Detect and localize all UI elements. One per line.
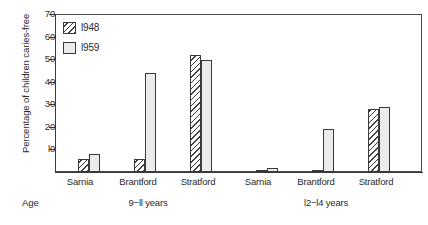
y-tick-label-70: 70 (9, 9, 55, 19)
group-label-12-14: l2−l4 years (266, 197, 386, 208)
y-axis-ticks: 70 60 50 40 30 20 l0 (0, 0, 55, 225)
bar-1948-brantford-12-14 (312, 170, 323, 172)
y-tick-label-10: l0 (9, 144, 55, 154)
bar-chart: Percentage of children caries-free 70 60… (0, 0, 428, 225)
y-tick-label-50: 50 (9, 54, 55, 64)
bar-1959-stratford-12-14 (379, 107, 390, 172)
bar-1948-sarnia-9-11 (78, 159, 89, 172)
y-tick-label-40: 40 (9, 77, 55, 87)
bar-1959-brantford-12-14 (323, 129, 334, 172)
category-label-stratford-9-11: Stratford (163, 176, 233, 187)
bar-1959-brantford-9-11 (145, 73, 156, 172)
bar-1948-stratford-9-11 (190, 55, 201, 172)
category-label-sarnia-12-14: Sarnia (228, 176, 288, 187)
group-label-9-11: 9−ll years (88, 197, 208, 208)
x-axis-line (55, 172, 423, 173)
bar-1948-sarnia-12-14 (256, 170, 267, 172)
category-label-stratford-12-14: Stratford (341, 176, 411, 187)
bar-1959-sarnia-9-11 (89, 154, 100, 172)
bar-1948-stratford-12-14 (368, 109, 379, 172)
y-tick-label-30: 30 (9, 99, 55, 109)
y-tick-label-60: 60 (9, 32, 55, 42)
x-axis-title-age: Age (22, 197, 39, 208)
y-tick-label-20: 20 (9, 122, 55, 132)
bar-1959-sarnia-12-14 (267, 168, 278, 172)
bars-layer (56, 15, 422, 172)
bar-1959-stratford-9-11 (201, 60, 212, 172)
bar-1948-brantford-9-11 (134, 159, 145, 172)
category-label-sarnia-9-11: Sarnia (50, 176, 110, 187)
